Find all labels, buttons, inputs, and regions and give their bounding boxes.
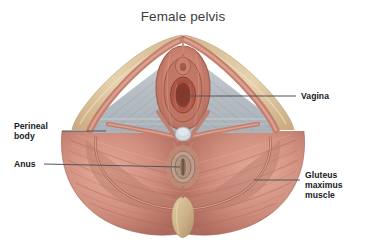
urethral-opening	[180, 63, 186, 71]
label-gluteus-maximus-muscle: Gluteus maximus muscle	[305, 170, 343, 201]
label-vagina: Vagina	[301, 91, 329, 101]
perineal-body	[175, 127, 191, 141]
figure-canvas: Female pelvis	[0, 0, 366, 250]
label-anus: Anus	[14, 159, 36, 169]
female-pelvis-illustration	[0, 0, 366, 250]
label-perineal-body: Perineal body	[14, 121, 48, 141]
